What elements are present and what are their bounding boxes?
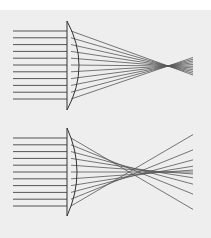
refracted-ray (71, 61, 193, 85)
aspheric-lens-diagram (13, 21, 193, 110)
lens-ray-diagram (0, 0, 211, 238)
refracted-ray (71, 160, 193, 193)
refracted-ray (71, 58, 193, 68)
refracted-ray (71, 57, 193, 99)
refracted-ray (71, 138, 193, 209)
spherical-lens-diagram (13, 128, 193, 216)
refracted-ray (71, 51, 193, 69)
refracted-ray (71, 59, 193, 92)
refracted-ray (71, 45, 193, 72)
refracted-ray (71, 135, 193, 206)
refracted-ray (71, 165, 193, 174)
